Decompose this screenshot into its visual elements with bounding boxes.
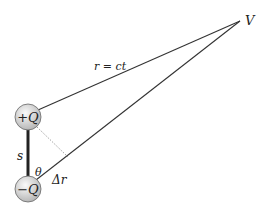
- dipole-diagram: +Q −Q V r = ct s θ Δr: [0, 0, 264, 213]
- point-v-label: V: [245, 13, 256, 28]
- path-difference-label: Δr: [51, 173, 68, 187]
- plus-charge: +Q: [15, 104, 41, 130]
- angle-label: θ: [35, 166, 42, 179]
- separation-label: s: [17, 149, 23, 163]
- distance-label: r = ct: [94, 60, 127, 73]
- line-minus-to-v: [36, 21, 240, 180]
- perpendicular-dotted-line: [37, 127, 68, 157]
- plus-charge-label: +Q: [17, 110, 39, 125]
- minus-charge: −Q: [15, 176, 41, 202]
- minus-charge-label: −Q: [17, 182, 39, 197]
- line-plus-to-v: [38, 21, 240, 110]
